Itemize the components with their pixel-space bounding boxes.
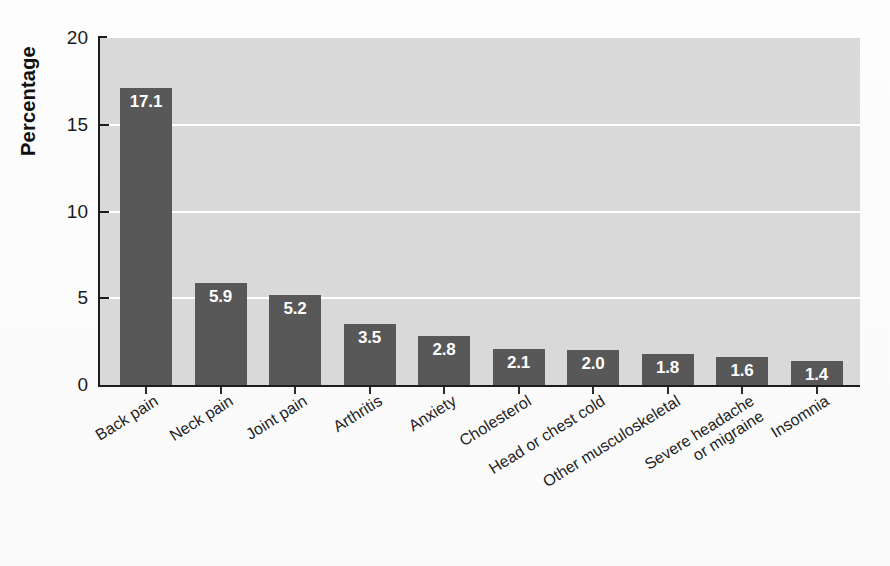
bar[interactable]: 3.5 xyxy=(344,324,396,385)
gridline-10 xyxy=(100,211,860,213)
y-tick-mark-15 xyxy=(100,124,109,126)
x-category-label: Back pain xyxy=(92,392,161,445)
x-category-label: Neck pain xyxy=(166,392,236,445)
bar[interactable]: 1.4 xyxy=(791,361,843,385)
x-category-label-line: Arthritis xyxy=(330,392,385,435)
gridline-15 xyxy=(100,124,860,126)
x-tick-mark xyxy=(518,387,520,394)
bar-value-label: 2.0 xyxy=(567,354,619,374)
bar[interactable]: 1.6 xyxy=(716,357,768,385)
x-category-label: Insomnia xyxy=(767,392,832,442)
x-category-label-line: Joint pain xyxy=(243,392,310,443)
bar-value-label: 2.8 xyxy=(418,340,470,360)
x-tick-mark xyxy=(667,387,669,394)
y-tick-mark-5 xyxy=(100,297,109,299)
bar-value-label: 1.4 xyxy=(791,365,843,385)
x-tick-mark xyxy=(294,387,296,394)
bar-value-label: 5.2 xyxy=(269,299,321,319)
bar-value-label: 2.1 xyxy=(493,353,545,373)
x-axis-line xyxy=(98,385,860,387)
x-tick-mark xyxy=(816,387,818,394)
y-tick-mark-10 xyxy=(100,211,109,213)
x-tick-mark xyxy=(220,387,222,394)
x-category-label-line: Back pain xyxy=(92,392,161,444)
x-tick-mark xyxy=(369,387,371,394)
bar-value-label: 3.5 xyxy=(344,328,396,348)
x-category-label: Joint pain xyxy=(243,392,311,444)
x-tick-mark xyxy=(443,387,445,394)
x-category-label-line: Anxiety xyxy=(406,392,460,434)
plot-area: 17.15.95.23.52.82.12.01.81.61.4 xyxy=(100,38,860,385)
bar[interactable]: 17.1 xyxy=(120,88,172,385)
bar[interactable]: 2.1 xyxy=(493,349,545,385)
y-tick-label-20: 20 xyxy=(54,27,88,49)
x-category-label-line: Neck pain xyxy=(166,392,235,444)
bar[interactable]: 2.8 xyxy=(418,336,470,385)
x-category-label: Anxiety xyxy=(406,392,460,435)
bar-value-label: 1.6 xyxy=(716,361,768,381)
x-tick-mark xyxy=(592,387,594,394)
bar[interactable]: 5.9 xyxy=(195,283,247,385)
y-axis-title: Percentage xyxy=(10,16,46,186)
bar[interactable]: 5.2 xyxy=(269,295,321,385)
x-category-label-line: Insomnia xyxy=(767,392,831,441)
y-tick-label-10: 10 xyxy=(54,201,88,223)
bar-value-label: 17.1 xyxy=(120,92,172,112)
x-tick-mark xyxy=(741,387,743,394)
y-axis-tick-labels: 05101520 xyxy=(48,0,88,566)
bar-value-label: 1.8 xyxy=(642,358,694,378)
y-tick-label-15: 15 xyxy=(54,114,88,136)
x-category-label: Arthritis xyxy=(330,392,386,436)
y-tick-label-5: 5 xyxy=(54,287,88,309)
bar[interactable]: 2.0 xyxy=(567,350,619,385)
chart-page: Percentage 05101520 17.15.95.23.52.82.12… xyxy=(0,0,890,566)
bar[interactable]: 1.8 xyxy=(642,354,694,385)
y-tick-label-0: 0 xyxy=(54,374,88,396)
x-tick-mark xyxy=(145,387,147,394)
bar-value-label: 5.9 xyxy=(195,287,247,307)
